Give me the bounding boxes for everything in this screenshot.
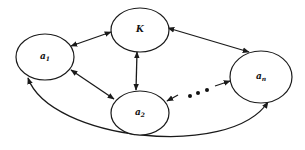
- edge-a2-ellipsis-stub: [167, 95, 178, 101]
- edge-a1-k: [71, 32, 111, 46]
- edge-k-a2: [136, 52, 137, 90]
- ellipsis-dots: [188, 88, 209, 98]
- node-k: K: [111, 8, 169, 52]
- network-diagram: a1 K a2 an: [0, 0, 305, 150]
- edge-an-ellipsis-stub: [215, 81, 230, 86]
- edge-a1-a2: [71, 70, 114, 99]
- node-a2: a2: [111, 91, 169, 135]
- node-an: an: [230, 51, 292, 103]
- node-a1: a1: [16, 34, 74, 80]
- node-k-label: K: [135, 24, 145, 34]
- edge-k-an: [168, 28, 249, 52]
